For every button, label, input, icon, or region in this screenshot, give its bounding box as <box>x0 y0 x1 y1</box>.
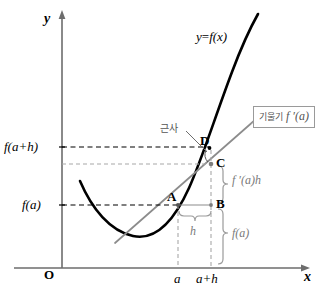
diagram-svg <box>0 0 327 299</box>
point-label-b: B <box>216 197 225 210</box>
slope-callout-math: f ′(a) <box>286 109 309 123</box>
slope-callout-korean: 기울기 <box>259 112 283 122</box>
guide-lines-group <box>62 147 212 268</box>
axes-group <box>14 10 310 271</box>
x-axis-label: x <box>304 270 311 284</box>
curve-label: y=f(x) <box>196 30 227 43</box>
leader-lines-group <box>186 119 256 152</box>
figure-canvas: y x O y=f(x) f(a+h) f(a) a a+h A B C D h… <box>0 0 327 299</box>
point-label-d: D <box>200 134 209 147</box>
brace-h <box>179 211 211 221</box>
approximation-annotation-label: 근사 <box>160 124 178 134</box>
y-tick-label-f-a: f(a) <box>22 198 41 211</box>
curve-label-fx: f(x) <box>209 29 227 44</box>
point-c-marker <box>209 162 214 167</box>
point-label-a: A <box>167 190 176 203</box>
x-tick-label-a: a <box>174 272 181 285</box>
point-a-marker <box>176 203 180 207</box>
brace-f-a <box>218 209 228 264</box>
brace-label-f-prime-a-h: f ′(a)h <box>232 174 261 186</box>
brace-label-h: h <box>190 225 196 237</box>
brace-label-f-a: f(a) <box>232 227 249 239</box>
y-axis-arrowhead <box>59 10 66 19</box>
point-label-c: C <box>216 156 225 169</box>
slope-callout-box: 기울기 f ′(a) <box>253 106 315 128</box>
x-tick-label-a-plus-h: a+h <box>196 272 218 285</box>
y-tick-label-f-a-plus-h: f(a+h) <box>4 140 38 153</box>
point-b-marker <box>209 203 213 207</box>
y-axis-label: y <box>44 12 50 26</box>
origin-label: O <box>44 268 54 281</box>
